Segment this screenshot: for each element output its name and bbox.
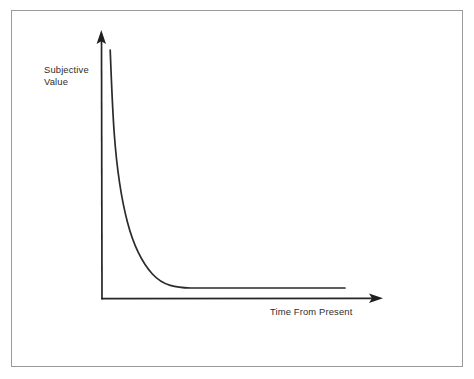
figure-root: Subjective Value Time From Present [0,0,474,379]
y-axis-line [102,40,103,300]
x-axis-label: Time From Present [270,306,352,318]
discounting-curve-plot [0,0,474,379]
y-axis-label: Subjective Value [44,64,89,89]
subjective-value-curve [110,50,345,288]
